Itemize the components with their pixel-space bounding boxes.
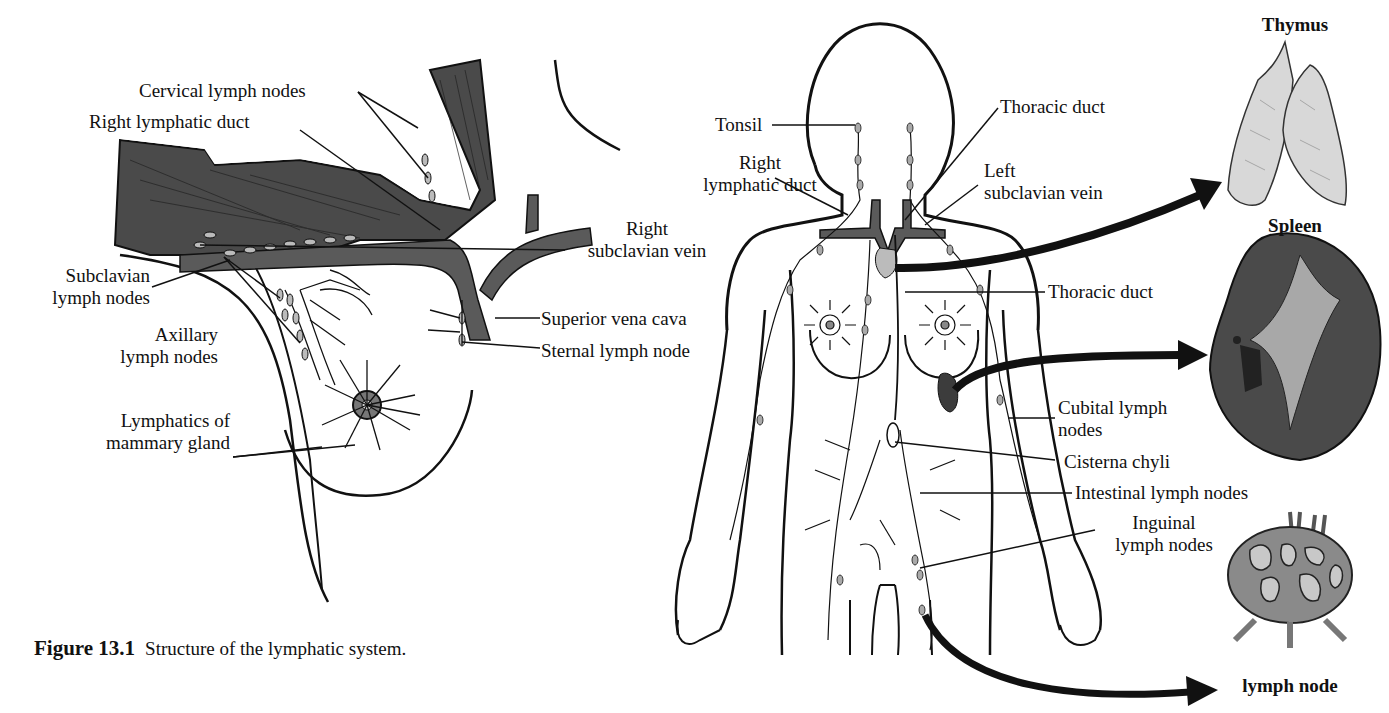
thymus-illustration [1228,42,1346,205]
figure-caption-text: Structure of the lymphatic system. [145,638,406,659]
title-lymph-node: lymph node [1225,675,1355,697]
organ-illustrations [0,0,1389,713]
figure-number: Figure 13.1 [34,636,135,660]
lymph-node-illustration [1228,512,1352,648]
title-spleen: Spleen [1250,215,1340,237]
spleen-illustration [1210,233,1380,460]
figure-caption: Figure 13.1Structure of the lymphatic sy… [34,636,406,661]
